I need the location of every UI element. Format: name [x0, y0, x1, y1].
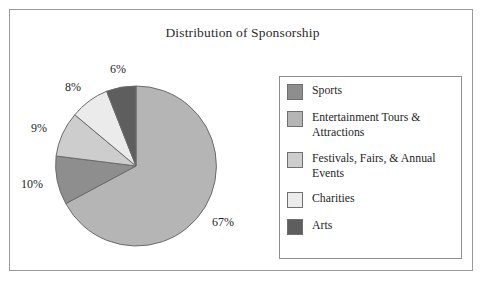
legend-swatch-arts: [287, 219, 303, 235]
chart-legend: Sports Entertainment Tours & Attractions…: [279, 76, 462, 259]
pie-chart: 67% 10% 9% 8% 6%: [36, 52, 266, 272]
legend-label-entertainment: Entertainment Tours & Attractions: [312, 110, 452, 141]
legend-label-festivals: Festivals, Fairs, & Annual Events: [312, 151, 452, 182]
pie-label-arts: 6%: [110, 63, 126, 75]
legend-swatch-sports: [287, 84, 303, 100]
legend-label-arts: Arts: [312, 218, 332, 233]
chart-figure: Distribution of Sponsorship 67% 10% 9% 8…: [0, 0, 485, 282]
legend-item-arts[interactable]: Arts: [287, 218, 457, 235]
legend-swatch-entertainment: [287, 111, 303, 127]
pie-label-festivals: 9%: [31, 122, 47, 134]
legend-item-sports[interactable]: Sports: [287, 83, 457, 100]
pie-label-sports: 10%: [21, 178, 43, 190]
legend-swatch-festivals: [287, 152, 303, 168]
legend-item-entertainment[interactable]: Entertainment Tours & Attractions: [287, 110, 457, 141]
legend-label-charities: Charities: [312, 191, 355, 206]
legend-swatch-charities: [287, 192, 303, 208]
legend-list: Sports Entertainment Tours & Attractions…: [287, 83, 457, 245]
pie-label-charities: 8%: [65, 81, 81, 93]
legend-item-charities[interactable]: Charities: [287, 191, 457, 208]
legend-label-sports: Sports: [312, 83, 342, 98]
legend-item-festivals[interactable]: Festivals, Fairs, & Annual Events: [287, 151, 457, 182]
pie-label-entertainment: 67%: [212, 216, 234, 228]
chart-title: Distribution of Sponsorship: [0, 25, 485, 41]
